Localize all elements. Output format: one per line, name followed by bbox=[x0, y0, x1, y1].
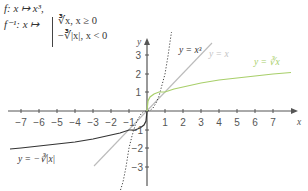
svg-text:−2: −2 bbox=[105, 117, 117, 128]
svg-text:−6: −6 bbox=[33, 117, 45, 128]
y-axis-label: y bbox=[136, 37, 142, 47]
x-axis-arrow-icon bbox=[291, 108, 298, 114]
svg-text:6: 6 bbox=[252, 117, 258, 128]
label-cbrt-positive: y = ∛x bbox=[253, 56, 280, 67]
x-axis-label: x bbox=[296, 117, 302, 127]
svg-text:1: 1 bbox=[162, 117, 168, 128]
svg-text:4: 4 bbox=[216, 117, 222, 128]
svg-text:−4: −4 bbox=[69, 117, 81, 128]
svg-text:−7: −7 bbox=[15, 117, 27, 128]
y-axis-arrow-icon bbox=[144, 38, 150, 45]
curve-identity bbox=[94, 43, 212, 166]
svg-text:−5: −5 bbox=[51, 117, 63, 128]
svg-text:−3: −3 bbox=[132, 162, 144, 173]
svg-text:5: 5 bbox=[234, 117, 240, 128]
function-graph: −7 −6 −5 −4 −3 −2 −1 1 2 3 4 5 6 7 3 2 1… bbox=[0, 0, 308, 191]
svg-text:1: 1 bbox=[135, 87, 141, 98]
curve-cbrt-positive bbox=[147, 73, 291, 112]
svg-text:2: 2 bbox=[180, 117, 186, 128]
svg-text:3: 3 bbox=[198, 117, 204, 128]
label-identity: y = x bbox=[208, 49, 229, 59]
svg-text:7: 7 bbox=[270, 117, 276, 128]
svg-text:−3: −3 bbox=[87, 117, 99, 128]
label-cbrt-negative: y = −∛|x| bbox=[17, 153, 55, 164]
label-cube: y = x³ bbox=[178, 45, 202, 55]
svg-text:2: 2 bbox=[135, 69, 141, 80]
svg-text:−2: −2 bbox=[132, 143, 144, 154]
svg-text:−1: −1 bbox=[132, 125, 144, 136]
svg-text:3: 3 bbox=[135, 50, 141, 61]
